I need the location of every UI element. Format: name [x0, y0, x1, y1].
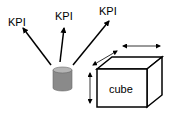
kpi-arrows — [23, 21, 109, 65]
diagram-canvas: KPI KPI KPI cube — [0, 0, 171, 115]
kpi-label-right: KPI — [99, 5, 117, 17]
cube-label: cube — [109, 83, 133, 95]
arrow-to-kpi-middle — [60, 28, 64, 62]
arrow-to-kpi-left — [23, 28, 51, 65]
database-cylinder-icon — [53, 67, 72, 91]
cube-shape: cube — [97, 57, 162, 107]
kpi-label-left: KPI — [8, 16, 26, 28]
kpi-label-middle: KPI — [55, 10, 73, 22]
